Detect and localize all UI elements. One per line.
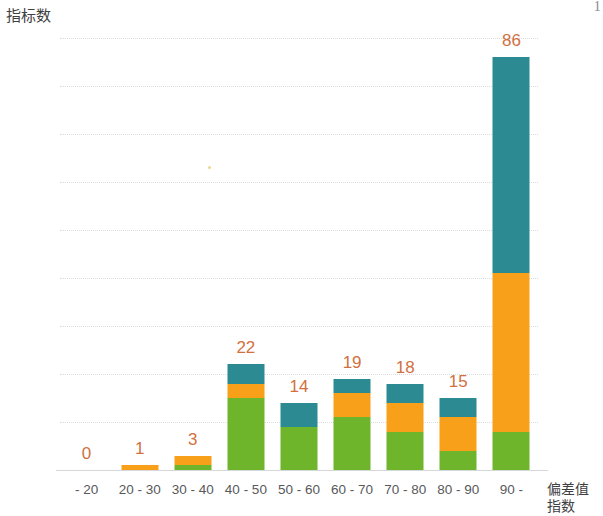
bar-segment-teal[interactable] [280,403,317,427]
bar-value-label: 18 [396,358,415,378]
bar-segment-green[interactable] [227,398,264,470]
bar-value-label: 14 [290,377,309,397]
scan-speck [208,166,211,169]
bar-slot[interactable]: 86 [485,38,538,470]
x-axis-tick-label: 30 - 40 [172,482,214,497]
bar-slot[interactable]: 22 [219,38,272,470]
bar-stack[interactable] [440,398,477,470]
bar-stack[interactable] [227,364,264,470]
bar-segment-green[interactable] [334,417,371,470]
bar-slot[interactable]: 18 [379,38,432,470]
bar-segment-orange[interactable] [440,417,477,451]
x-axis-title-line2: 指数 [547,498,575,514]
x-axis-tick-label: 60 - 70 [331,482,373,497]
bar-value-label: 15 [449,372,468,392]
stacked-bar-chart: 1 指标数 偏差值指数 0102030405060708090 01322141… [0,0,603,516]
bar-stack[interactable] [280,403,317,470]
bar-value-label: 22 [236,338,255,358]
bar-stack[interactable] [174,456,211,470]
bar-segment-orange[interactable] [493,273,530,431]
x-axis-title-line1: 偏差值 [547,481,589,497]
x-axis-tick-label: 20 - 30 [119,482,161,497]
bar-segment-green[interactable] [493,432,530,470]
bar-value-label: 3 [188,430,197,450]
bar-stack[interactable] [334,379,371,470]
x-axis-line [56,470,548,471]
bar-segment-orange[interactable] [227,384,264,398]
y-axis-title: 指标数 [6,4,51,25]
bar-slot[interactable]: 14 [272,38,325,470]
bar-segment-green[interactable] [174,465,211,470]
bar-value-label: 0 [82,444,91,464]
bar-stack[interactable] [493,57,530,470]
bar-segment-green[interactable] [440,451,477,470]
x-axis-tick-label: 50 - 60 [278,482,320,497]
bar-segment-teal[interactable] [387,384,424,403]
x-axis-title: 偏差值指数 [547,481,601,515]
bar-slot[interactable]: 1 [113,38,166,470]
bar-slot[interactable]: 3 [166,38,219,470]
bar-slot[interactable]: 19 [326,38,379,470]
bar-segment-teal[interactable] [334,379,371,393]
bar-segment-orange[interactable] [334,393,371,417]
bar-value-label: 86 [502,31,521,51]
plot-area: 0102030405060708090 013221419181586 - 20… [60,38,538,470]
x-axis-tick-label: 80 - 90 [437,482,479,497]
bar-segment-green[interactable] [280,427,317,470]
bar-slot[interactable]: 15 [432,38,485,470]
bar-stack[interactable] [121,465,158,470]
bar-value-label: 19 [343,353,362,373]
bar-segment-teal[interactable] [440,398,477,417]
bar-value-label: 1 [135,439,144,459]
bar-segment-green[interactable] [387,432,424,470]
bar-series-group: 013221419181586 [60,38,538,470]
bar-segment-orange[interactable] [121,465,158,470]
bar-segment-teal[interactable] [493,57,530,273]
x-axis-tick-label: 70 - 80 [384,482,426,497]
bar-segment-orange[interactable] [174,456,211,466]
bar-stack[interactable] [387,384,424,470]
x-axis-tick-label: 40 - 50 [225,482,267,497]
bar-segment-teal[interactable] [227,364,264,383]
bar-segment-orange[interactable] [387,403,424,432]
x-axis-tick-label: 90 - [500,482,523,497]
page-number-artifact: 1 [594,0,602,15]
bar-slot[interactable]: 0 [60,38,113,470]
x-axis-tick-label: - 20 [75,482,98,497]
